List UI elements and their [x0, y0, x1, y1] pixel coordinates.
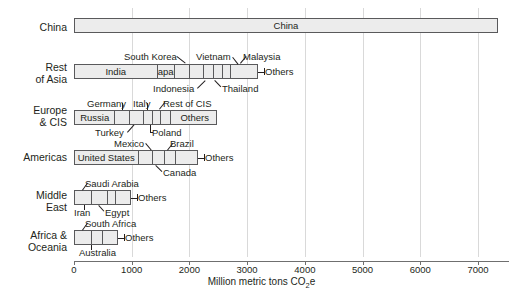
gridline-2000: [189, 8, 190, 257]
leader-iran: [84, 205, 85, 210]
row-label-china: China: [40, 22, 67, 34]
segment-thailand: [214, 65, 223, 78]
leader-others-me-tick: [137, 194, 138, 201]
segment-label-japan: Japan: [158, 65, 175, 78]
x-ticklabel-7000: 7000: [467, 264, 488, 275]
segment-vietnam: [204, 65, 214, 78]
callout-saudi-arabia: Saudi Arabia: [85, 178, 139, 189]
callout-south-africa: South Africa: [85, 218, 136, 229]
callout-indonesia: Indonesia: [153, 83, 194, 94]
leader-australia: [91, 245, 92, 250]
leader-south-korea: [176, 56, 185, 64]
x-ticklabel-0: 0: [71, 264, 76, 275]
leader-others-africa-tick: [124, 234, 125, 241]
x-ticklabel-2000: 2000: [179, 264, 200, 275]
x-ticklabel-6000: 6000: [410, 264, 431, 275]
callout-egypt: Egypt: [105, 207, 129, 218]
leader-egypt: [98, 205, 104, 212]
callout-iran: Iran: [74, 207, 90, 218]
segment-label-others-europe: Others: [171, 111, 218, 124]
segment-india: India: [75, 65, 158, 78]
segment-poland: [153, 111, 161, 124]
bar-africa-oceania: [74, 230, 118, 245]
callout-canada: Canada: [163, 167, 196, 178]
x-ticklabel-5000: 5000: [352, 264, 373, 275]
segment-label-united-states: United States: [75, 151, 138, 164]
segment-mexico: [139, 151, 153, 164]
leader-poland-h: [150, 132, 153, 133]
callout-south-korea: South Korea: [124, 51, 177, 62]
segment-russia: Russia: [75, 111, 115, 124]
leader-others-americas-tick: [204, 154, 205, 161]
callout-others-me: Others: [138, 192, 167, 203]
leader-others-asia-tick: [264, 68, 265, 75]
callout-others-americas: Others: [205, 152, 234, 163]
segment-others-asia: [231, 65, 259, 78]
bar-europe-cis: Russia Others: [74, 110, 217, 125]
segment-japan: Japan: [158, 65, 176, 78]
segment-germany: [115, 111, 130, 124]
segment-saudi-arabia: [92, 191, 108, 204]
x-axis-title-pre: Million metric tons CO: [208, 276, 306, 287]
segment-canada: [153, 151, 165, 164]
callout-rest-of-cis: Rest of CIS: [163, 98, 212, 109]
bar-americas: United States: [74, 150, 198, 165]
callout-turkey: Turkey: [95, 127, 124, 138]
leader-thailand: [214, 80, 221, 87]
segment-brazil: [165, 151, 176, 164]
gridline-4000: [305, 8, 306, 257]
callout-malaysia: Malaysia: [243, 51, 281, 62]
leader-indonesia: [197, 80, 206, 88]
leader-italy: [147, 103, 148, 110]
callout-others-africa: Others: [125, 232, 154, 243]
x-axis-title-post: e: [310, 276, 316, 287]
bar-china: China: [74, 18, 498, 33]
segment-others-americas: [176, 151, 199, 164]
segment-label-india: India: [75, 65, 157, 78]
x-ticklabel-3000: 3000: [237, 264, 258, 275]
gridline-6000: [420, 8, 421, 257]
segment-turkey: [130, 111, 143, 124]
segment-italy: [144, 111, 153, 124]
row-label-europe-cis: Europe & CIS: [33, 105, 67, 128]
callout-brazil: Brazil: [170, 138, 194, 149]
segment-south-africa: [75, 231, 92, 244]
segment-malaysia: [223, 65, 231, 78]
x-ticklabel-4000: 4000: [294, 264, 315, 275]
segment-others-europe: Others: [171, 111, 218, 124]
segment-egypt: [108, 191, 116, 204]
callout-germany: Germany: [87, 98, 126, 109]
callout-mexico: Mexico: [114, 138, 144, 149]
row-label-rest-of-asia: Rest of Asia: [35, 62, 67, 85]
segment-rest-of-cis: [161, 111, 171, 124]
row-label-africa-oceania: Africa & Oceania: [28, 230, 67, 253]
x-ticklabel-1000: 1000: [121, 264, 142, 275]
callout-poland: Poland: [152, 127, 182, 138]
segment-others-middle-east: [116, 191, 132, 204]
segment-label-russia: Russia: [75, 111, 114, 124]
bar-middle-east: [74, 190, 131, 205]
segment-iran: [75, 191, 92, 204]
segment-china: China: [75, 19, 497, 32]
chart-figure: China China Rest of Asia India Japan Sou…: [0, 0, 523, 295]
segment-south-korea: [175, 65, 190, 78]
leader-canada: [155, 165, 162, 172]
gridline-3000: [247, 8, 248, 257]
callout-thailand: Thailand: [222, 83, 258, 94]
row-label-middle-east: Middle East: [36, 190, 67, 213]
callout-others-asia: Others: [265, 66, 294, 77]
segment-others-africa: [103, 231, 119, 244]
bar-rest-of-asia: India Japan: [74, 64, 258, 79]
gridline-5000: [363, 8, 364, 257]
callout-australia: Australia: [79, 247, 116, 258]
segment-australia: [92, 231, 103, 244]
x-axis-line: [74, 261, 509, 262]
segment-united-states: United States: [75, 151, 139, 164]
gridline-7000: [478, 8, 479, 257]
segment-label-china: China: [75, 19, 497, 32]
row-label-americas: Americas: [23, 152, 67, 164]
x-axis-title: Million metric tons CO2e: [0, 276, 523, 290]
segment-indonesia: [190, 65, 203, 78]
callout-vietnam: Vietnam: [196, 51, 231, 62]
leader-germany: [122, 103, 123, 110]
